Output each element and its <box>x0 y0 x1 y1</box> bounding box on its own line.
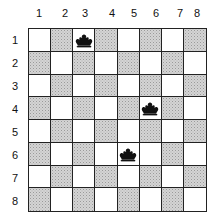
row-label: 4 <box>9 103 21 115</box>
board-square-r4-c8 <box>184 97 206 120</box>
board-square-r5-c6 <box>140 120 162 143</box>
board-square-r8-c8 <box>184 188 206 211</box>
board-square-r1-c2 <box>51 29 73 52</box>
board-square-r2-c2 <box>51 52 73 75</box>
column-label: 3 <box>79 7 91 19</box>
row-label: 6 <box>9 149 21 161</box>
board-square-r8-c5 <box>118 188 140 211</box>
board-square-r5-c2 <box>51 120 73 143</box>
board-square-r1-c3 <box>73 29 95 52</box>
board-square-r8-c2 <box>51 188 73 211</box>
crown-icon <box>74 34 94 48</box>
column-label: 5 <box>128 7 140 19</box>
board-square-r6-c4 <box>95 143 117 166</box>
board-square-r3-c5 <box>118 75 140 98</box>
board-square-r6-c7 <box>162 143 184 166</box>
row-label: 3 <box>9 80 21 92</box>
board-square-r6-c3 <box>73 143 95 166</box>
board-square-r1-c8 <box>184 29 206 52</box>
board-square-r3-c3 <box>73 75 95 98</box>
column-label: 8 <box>191 7 203 19</box>
board-square-r1-c1 <box>29 29 51 52</box>
board-square-r6-c6 <box>140 143 162 166</box>
board-square-r3-c2 <box>51 75 73 98</box>
board-square-r5-c7 <box>162 120 184 143</box>
crown-icon <box>118 147 138 161</box>
board-square-r8-c6 <box>140 188 162 211</box>
board-square-r4-c6 <box>140 97 162 120</box>
row-label: 2 <box>9 57 21 69</box>
row-label: 5 <box>9 126 21 138</box>
board-square-r1-c6 <box>140 29 162 52</box>
row-label: 7 <box>9 172 21 184</box>
board-square-r7-c7 <box>162 166 184 189</box>
board-square-r8-c7 <box>162 188 184 211</box>
row-label: 8 <box>9 195 21 207</box>
column-label: 7 <box>174 7 186 19</box>
board-square-r4-c4 <box>95 97 117 120</box>
board-square-r4-c7 <box>162 97 184 120</box>
board-square-r4-c3 <box>73 97 95 120</box>
board-square-r8-c1 <box>29 188 51 211</box>
column-label: 2 <box>59 7 71 19</box>
board-square-r7-c1 <box>29 166 51 189</box>
board-square-r5-c4 <box>95 120 117 143</box>
board-square-r4-c5 <box>118 97 140 120</box>
board-square-r7-c4 <box>95 166 117 189</box>
board-square-r4-c2 <box>51 97 73 120</box>
board-square-r4-c1 <box>29 97 51 120</box>
board-square-r8-c4 <box>95 188 117 211</box>
column-label: 6 <box>150 7 162 19</box>
board-square-r2-c4 <box>95 52 117 75</box>
board-square-r1-c5 <box>118 29 140 52</box>
board-square-r2-c8 <box>184 52 206 75</box>
board-square-r1-c4 <box>95 29 117 52</box>
board-square-r3-c7 <box>162 75 184 98</box>
board-square-r5-c1 <box>29 120 51 143</box>
chess-board <box>28 28 207 212</box>
board-square-r3-c1 <box>29 75 51 98</box>
board-square-r3-c6 <box>140 75 162 98</box>
crown-icon <box>140 102 160 116</box>
column-label: 1 <box>33 7 45 19</box>
board-square-r2-c1 <box>29 52 51 75</box>
board-square-r7-c2 <box>51 166 73 189</box>
board-square-r5-c8 <box>184 120 206 143</box>
board-square-r5-c3 <box>73 120 95 143</box>
board-square-r6-c8 <box>184 143 206 166</box>
board-square-r2-c7 <box>162 52 184 75</box>
board-square-r6-c1 <box>29 143 51 166</box>
board-square-r7-c8 <box>184 166 206 189</box>
board-square-r2-c5 <box>118 52 140 75</box>
board-square-r5-c5 <box>118 120 140 143</box>
column-label: 4 <box>106 7 118 19</box>
board-square-r3-c8 <box>184 75 206 98</box>
board-square-r7-c3 <box>73 166 95 189</box>
board-square-r8-c3 <box>73 188 95 211</box>
board-square-r2-c6 <box>140 52 162 75</box>
board-square-r3-c4 <box>95 75 117 98</box>
board-square-r6-c2 <box>51 143 73 166</box>
board-square-r7-c6 <box>140 166 162 189</box>
board-square-r2-c3 <box>73 52 95 75</box>
board-square-r7-c5 <box>118 166 140 189</box>
board-square-r1-c7 <box>162 29 184 52</box>
board-square-r6-c5 <box>118 143 140 166</box>
row-label: 1 <box>9 34 21 46</box>
